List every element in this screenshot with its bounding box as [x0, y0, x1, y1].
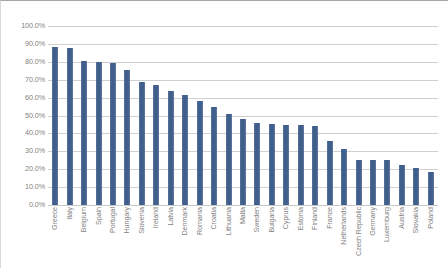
x-axis-tick-label: Finland [311, 207, 318, 230]
bars-layer [48, 26, 438, 205]
bar [67, 48, 73, 205]
x-axis-tick-label: Greece [51, 207, 58, 230]
x-axis-tick-label: Netherlands [340, 207, 347, 245]
y-axis-tick-label: 80.0% [1, 58, 45, 65]
bar [298, 125, 304, 205]
y-axis-tick-label: 50.0% [1, 112, 45, 119]
x-axis-tick-label: France [326, 207, 333, 229]
x-axis-tick-label: Sweden [253, 207, 260, 232]
bar [384, 160, 390, 205]
bar [168, 91, 174, 205]
x-axis-tick-label: Czech Republic [355, 207, 362, 256]
x-axis-tick-label: Latvia [167, 207, 174, 226]
x-axis-tick-label: Portugal [109, 207, 116, 233]
bar [81, 61, 87, 205]
bar [96, 62, 102, 205]
x-axis-tick-label: Slovenia [138, 207, 145, 234]
x-axis-tick-label: Lithuania [225, 207, 232, 235]
bar [182, 95, 188, 205]
bar [197, 101, 203, 205]
y-axis: 100.0%90.0%80.0%70.0%60.0%50.0%40.0%30.0… [1, 26, 45, 205]
y-axis-tick-label: 90.0% [1, 40, 45, 47]
bar [52, 47, 58, 205]
y-axis-tick-label: 20.0% [1, 166, 45, 173]
x-axis-tick-label: Croatia [210, 207, 217, 229]
bar-chart: 100.0%90.0%80.0%70.0%60.0%50.0%40.0%30.0… [0, 0, 448, 268]
bar [226, 114, 232, 205]
bar [269, 124, 275, 205]
y-axis-tick-label: 0.0% [1, 201, 45, 208]
bar [327, 141, 333, 205]
x-axis-tick-label: Ireland [152, 207, 159, 228]
bar [124, 70, 130, 205]
y-axis-tick-label: 40.0% [1, 130, 45, 137]
x-axis-tick-label: Germany [369, 207, 376, 236]
bar [254, 123, 260, 205]
x-axis-tick-label: Spain [95, 207, 102, 225]
bar [283, 125, 289, 205]
x-axis-tick-label: Slovakia [412, 207, 419, 233]
x-axis-tick-label: Italy [66, 207, 73, 220]
x-axis-tick-label: Romania [196, 207, 203, 235]
bar [139, 82, 145, 205]
bar [356, 160, 362, 205]
x-axis-tick-label: Malta [239, 207, 246, 224]
x-axis-tick-label: Denmark [181, 207, 188, 235]
bar [341, 149, 347, 205]
x-axis-tick-label: Poland [427, 207, 434, 229]
bar [312, 126, 318, 205]
x-axis-tick-label: Hungary [123, 207, 130, 233]
bar [428, 172, 434, 205]
bar [110, 63, 116, 205]
x-axis-tick-label: Austria [398, 207, 405, 229]
bar [413, 168, 419, 205]
x-axis-tick-label: Luxemburg [383, 207, 390, 242]
y-axis-tick-label: 60.0% [1, 94, 45, 101]
y-axis-tick-label: 10.0% [1, 183, 45, 190]
x-axis: GreeceItalyBelgiumSpainPortugalHungarySl… [48, 207, 438, 267]
x-axis-tick-label: Bulgaria [268, 207, 275, 233]
x-axis-tick-label: Estonia [297, 207, 304, 230]
bar [153, 85, 159, 205]
y-axis-tick-label: 70.0% [1, 76, 45, 83]
gridline [48, 205, 438, 206]
y-axis-tick-label: 100.0% [1, 22, 45, 29]
x-axis-tick-label: Belgium [80, 207, 87, 232]
y-axis-tick-label: 30.0% [1, 148, 45, 155]
bar [399, 165, 405, 205]
x-axis-tick-label: Cyprus [282, 207, 289, 229]
bar [240, 119, 246, 205]
bar [370, 160, 376, 205]
bar [211, 107, 217, 205]
